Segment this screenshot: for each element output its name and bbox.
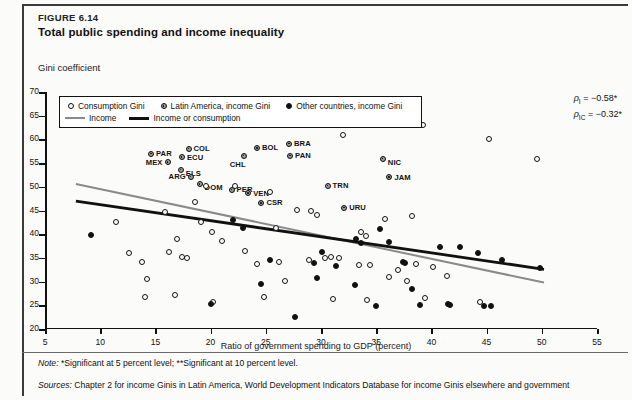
data-point <box>188 174 194 180</box>
figure-number: FIGURE 6.14 <box>38 12 98 23</box>
legend-label: Latin America, income Gini <box>171 101 271 111</box>
data-point <box>457 244 463 250</box>
data-point <box>287 153 293 159</box>
open-circle-icon <box>68 103 74 109</box>
y-tick-label: 60 <box>17 133 39 143</box>
data-point <box>413 261 419 267</box>
legend-label: Consumption Gini <box>78 101 145 111</box>
x-tick <box>321 329 323 334</box>
legend-item-latin-america-circle: Latin America, income Gini <box>158 101 271 111</box>
data-point <box>230 217 236 223</box>
data-point <box>165 159 171 165</box>
x-tick <box>100 329 102 334</box>
x-tick <box>487 329 489 334</box>
data-point <box>340 132 346 138</box>
data-point <box>197 181 203 187</box>
y-tick <box>39 305 45 307</box>
x-tick-label: 55 <box>585 337 609 347</box>
rho-income-value: = −0.58* <box>583 93 617 103</box>
legend-label: Income or consumption <box>153 113 240 123</box>
y-tick-label: 55 <box>17 157 39 167</box>
data-point <box>430 264 436 270</box>
x-tick-label: 15 <box>143 337 167 347</box>
data-point <box>209 229 215 235</box>
y-tick <box>39 163 45 165</box>
legend-item-filled-circle: Other countries, income Gini <box>283 101 402 111</box>
plot-area: PARMEXCOLECUELSARGDOMPERVENCSRCHLBOLBRAP… <box>45 92 597 329</box>
y-tick <box>39 234 45 236</box>
data-point <box>276 259 282 265</box>
rho-income-row: ρI = −0.58* <box>574 92 622 108</box>
latin-america-circle-icon <box>161 103 167 109</box>
point-label-chl: CHL <box>230 160 246 169</box>
note-label: Note: <box>38 358 59 368</box>
point-label-arg: ARG <box>169 172 186 181</box>
rho-consumption-subscript: IC <box>579 114 586 121</box>
chart-legend: Consumption GiniLatin America, income Gi… <box>59 96 422 128</box>
data-point <box>148 151 154 157</box>
point-label-bra: BRA <box>294 139 311 148</box>
legend-item-open-circle: Consumption Gini <box>65 101 145 111</box>
y-tick <box>39 282 45 284</box>
data-point <box>232 183 238 189</box>
y-axis-title: Gini coefficient <box>38 62 100 73</box>
data-point <box>364 297 370 303</box>
y-tick-label: 50 <box>17 181 39 191</box>
data-point <box>166 249 172 255</box>
point-label-bol: BOL <box>262 143 278 152</box>
data-point <box>499 257 505 263</box>
data-point <box>447 302 453 308</box>
x-tick-label: 50 <box>530 337 554 347</box>
x-tick-label: 20 <box>199 337 223 347</box>
data-point <box>402 260 408 266</box>
figure-container: FIGURE 6.14 Total public spending and in… <box>0 0 632 400</box>
sources-text: Chapter 2 for income Ginis in Latin Amer… <box>74 380 569 390</box>
filled-circle-icon <box>286 103 292 109</box>
trend-line-icon <box>65 117 85 119</box>
x-tick <box>431 329 433 334</box>
data-point <box>208 301 214 307</box>
y-tick <box>39 92 45 94</box>
data-point <box>113 219 119 225</box>
rho-income-subscript: I <box>579 98 581 105</box>
data-point <box>404 278 410 284</box>
y-tick <box>39 211 45 213</box>
data-point <box>282 278 288 284</box>
top-rule <box>22 4 628 6</box>
legend-label: Income <box>89 113 116 123</box>
y-tick-label: 30 <box>17 276 39 286</box>
x-tick <box>266 329 268 334</box>
data-point <box>186 146 192 152</box>
sources-line: Sources: Chapter 2 for income Ginis in L… <box>38 380 618 390</box>
y-tick <box>39 258 45 260</box>
x-tick <box>45 329 47 334</box>
data-point <box>325 183 331 189</box>
figure-title: Total public spending and income inequal… <box>38 26 284 38</box>
y-tick-label: 70 <box>17 86 39 96</box>
rho-consumption-value: = −0.32* <box>588 109 622 119</box>
point-label-csr: CSR <box>266 198 282 207</box>
data-point <box>139 259 145 265</box>
point-label-jam: JAM <box>394 173 410 182</box>
note-text: *Significant at 5 percent level; **Signi… <box>61 358 298 368</box>
y-tick-label: 40 <box>17 228 39 238</box>
x-tick <box>211 329 213 334</box>
data-point <box>144 276 150 282</box>
trend-line-icon <box>129 117 149 120</box>
y-tick <box>39 139 45 141</box>
data-point <box>241 153 247 159</box>
rho-consumption-row: ρIC = −0.32* <box>574 108 622 124</box>
legend-markers-row: Consumption GiniLatin America, income Gi… <box>65 100 415 112</box>
point-label-uru: URU <box>349 203 366 212</box>
data-point <box>330 296 336 302</box>
x-tick <box>542 329 544 334</box>
y-tick <box>39 187 45 189</box>
data-point <box>240 225 246 231</box>
data-point <box>373 303 379 309</box>
x-tick-label: 45 <box>475 337 499 347</box>
data-point <box>341 205 347 211</box>
data-point <box>437 244 443 250</box>
data-point <box>444 273 450 279</box>
data-point <box>294 207 300 213</box>
x-tick <box>376 329 378 334</box>
